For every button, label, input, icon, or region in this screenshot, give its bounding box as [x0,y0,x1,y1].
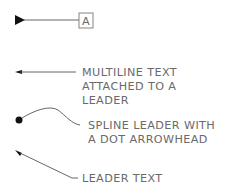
spline-leader: SPLINE LEADER WITH A DOT ARROWHEAD [16,108,216,146]
spline-text-line-1: SPLINE LEADER WITH [88,119,215,132]
datum-label: A [82,15,90,28]
leader-text: LEADER TEXT [82,172,163,185]
leader-diagram: A MULTILINE TEXT ATTACHED TO A LEADER SP… [0,0,229,194]
tolerance-leader: A [15,13,93,28]
multiline-text-line-1: MULTILINE TEXT [82,66,177,79]
spline-text-line-2: A DOT ARROWHEAD [88,133,208,146]
multiline-text-line-2: ATTACHED TO A [82,80,176,93]
diagram-svg: A MULTILINE TEXT ATTACHED TO A LEADER SP… [0,0,229,194]
multiline-text-line-3: LEADER [82,94,129,107]
filled-triangle-arrowhead-icon [15,15,25,25]
multiline-leader: MULTILINE TEXT ATTACHED TO A LEADER [15,66,177,107]
dot-arrowhead-icon [16,117,23,124]
simple-leader: LEADER TEXT [15,150,163,185]
